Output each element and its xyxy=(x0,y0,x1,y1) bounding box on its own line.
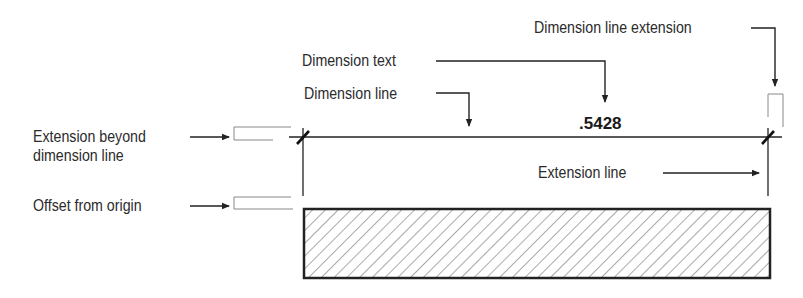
label-extension-line: Extension line xyxy=(538,163,626,182)
dimension-diagram: Dimension line extension Dimension text … xyxy=(0,0,803,298)
dimension-line-extension-bracket xyxy=(768,94,783,127)
hatched-object xyxy=(304,209,770,278)
dimension-value-text: .5428 xyxy=(579,114,622,133)
leader-dimension-line-extension xyxy=(751,28,775,86)
extension-beyond-bracket xyxy=(234,127,291,140)
leader-dimension-text xyxy=(436,61,605,102)
label-offset-from-origin: Offset from origin xyxy=(33,196,142,215)
offset-from-origin-bracket xyxy=(234,197,293,209)
label-dimension-line: Dimension line xyxy=(304,84,397,103)
label-extension-beyond-dimension-line: Extension beyond dimension line xyxy=(33,127,146,165)
label-dimension-line-extension: Dimension line extension xyxy=(534,18,692,37)
label-dimension-text: Dimension text xyxy=(302,51,396,70)
leader-dimension-line xyxy=(436,93,469,126)
